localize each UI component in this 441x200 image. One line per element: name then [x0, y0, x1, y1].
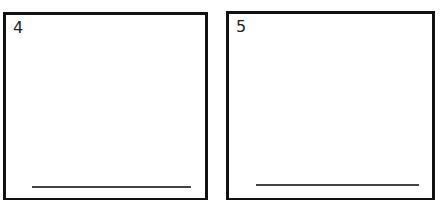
answer-line	[32, 186, 191, 188]
answer-box-4: 4	[3, 12, 208, 200]
box-number: 5	[236, 19, 246, 35]
box-number: 4	[13, 20, 23, 36]
answer-line	[256, 184, 419, 186]
answer-box-5: 5	[226, 11, 435, 200]
